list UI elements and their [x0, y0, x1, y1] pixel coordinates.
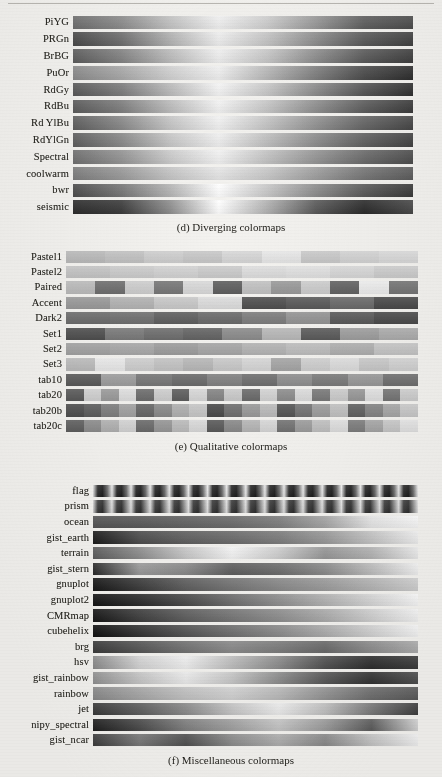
colormap-row: hsv [0, 655, 442, 671]
colormap-row: flag [0, 483, 442, 499]
colormap-name-label: CMRmap [0, 610, 93, 622]
colormap-row: Accent [0, 295, 442, 310]
colormap-name-label: Set1 [0, 328, 66, 340]
colormap-row: Rd YlBu [0, 115, 442, 132]
colormap-swatch-bar [66, 328, 418, 340]
colormap-row: PuOr [0, 64, 442, 81]
colormap-row: gnuplot [0, 577, 442, 593]
colormap-name-label: flag [0, 485, 93, 497]
colormap-row: gist_stern [0, 561, 442, 577]
colormap-row: bwr [0, 182, 442, 199]
colormap-row: brg [0, 639, 442, 655]
qualitative-rows: Pastel1Pastel2PairedAccentDark2Set1Set2S… [0, 249, 442, 434]
colormap-row: seismic [0, 199, 442, 216]
figure-diverging-colormaps: PiYGPRGnBrBGPuOrRdGyRdBuRd YlBuRdYlGnSpe… [0, 14, 442, 233]
colormap-row: gist_earth [0, 530, 442, 546]
colormap-name-label: PiYG [0, 16, 73, 28]
colormap-row: rainbow [0, 686, 442, 702]
colormap-name-label: gist_stern [0, 563, 93, 575]
figure-d-caption: (d) Diverging colormaps [0, 221, 442, 233]
colormap-row: Pastel2 [0, 264, 442, 279]
diverging-rows: PiYGPRGnBrBGPuOrRdGyRdBuRd YlBuRdYlGnSpe… [0, 14, 442, 216]
colormap-row: Set1 [0, 326, 442, 341]
colormap-row: nipy_spectral [0, 717, 442, 733]
colormap-swatch-bar [73, 150, 413, 164]
colormap-name-label: Pastel1 [0, 251, 66, 263]
colormap-swatch-bar [73, 49, 413, 63]
colormap-row: Set2 [0, 341, 442, 356]
colormap-row: gist_rainbow [0, 670, 442, 686]
colormap-row: Dark2 [0, 311, 442, 326]
colormap-name-label: Pastel2 [0, 266, 66, 278]
colormap-swatch-bar [73, 184, 413, 198]
colormap-swatch-bar [73, 167, 413, 181]
colormap-swatch-bar [93, 703, 418, 715]
colormap-row: ocean [0, 514, 442, 530]
colormap-name-label: coolwarm [0, 168, 73, 180]
colormap-swatch-bar [93, 485, 418, 497]
colormap-name-label: Set3 [0, 358, 66, 370]
colormap-swatch-bar [73, 32, 413, 46]
colormap-name-label: rainbow [0, 688, 93, 700]
colormap-name-label: ocean [0, 516, 93, 528]
colormap-name-label: brg [0, 641, 93, 653]
colormap-name-label: tab20b [0, 405, 66, 417]
colormap-swatch-bar [73, 83, 413, 97]
colormap-row: RdYlGn [0, 132, 442, 149]
colormap-swatch-bar [93, 687, 418, 699]
colormap-swatch-bar [93, 734, 418, 746]
colormap-row: Spectral [0, 148, 442, 165]
colormap-row: gnuplot2 [0, 592, 442, 608]
colormap-swatch-bar [66, 389, 418, 401]
figure-f-caption: (f) Miscellaneous colormaps [0, 754, 442, 766]
colormap-swatch-bar [93, 563, 418, 575]
colormap-name-label: tab10 [0, 374, 66, 386]
colormap-name-label: nipy_spectral [0, 719, 93, 731]
colormap-name-label: cubehelix [0, 625, 93, 637]
colormap-name-label: seismic [0, 201, 73, 213]
colormap-swatch-bar [73, 133, 413, 147]
colormap-row: Set3 [0, 357, 442, 372]
miscellaneous-rows: flagprismoceangist_earthterraingist_ster… [0, 483, 442, 748]
colormap-name-label: gnuplot [0, 578, 93, 590]
colormap-name-label: prism [0, 500, 93, 512]
figure-miscellaneous-colormaps: flagprismoceangist_earthterraingist_ster… [0, 483, 442, 766]
colormap-name-label: RdBu [0, 100, 73, 112]
colormap-swatch-bar [66, 358, 418, 370]
colormap-swatch-bar [93, 516, 418, 528]
colormap-swatch-bar [66, 297, 418, 309]
colormap-name-label: Dark2 [0, 312, 66, 324]
colormap-name-label: Rd YlBu [0, 117, 73, 129]
colormap-swatch-bar [93, 531, 418, 543]
colormap-row: terrain [0, 545, 442, 561]
colormap-swatch-bar [93, 578, 418, 590]
colormap-swatch-bar [66, 343, 418, 355]
colormap-name-label: BrBG [0, 50, 73, 62]
colormap-name-label: terrain [0, 547, 93, 559]
colormap-swatch-bar [93, 547, 418, 559]
colormap-name-label: Accent [0, 297, 66, 309]
figure-qualitative-colormaps: Pastel1Pastel2PairedAccentDark2Set1Set2S… [0, 249, 442, 452]
colormap-swatch-bar [66, 266, 418, 278]
colormap-swatch-bar [66, 281, 418, 293]
colormap-row: PRGn [0, 31, 442, 48]
colormap-name-label: gist_rainbow [0, 672, 93, 684]
colormap-swatch-bar [66, 312, 418, 324]
colormap-row: RdGy [0, 81, 442, 98]
colormap-name-label: gnuplot2 [0, 594, 93, 606]
colormap-swatch-bar [73, 16, 413, 30]
colormap-row: RdBu [0, 98, 442, 115]
colormap-swatch-bar [73, 116, 413, 130]
colormap-name-label: hsv [0, 656, 93, 668]
colormap-swatch-bar [93, 609, 418, 621]
colormap-name-label: gist_ncar [0, 734, 93, 746]
colormap-row: gist_ncar [0, 733, 442, 749]
colormap-swatch-bar [66, 374, 418, 386]
colormap-row: tab10 [0, 372, 442, 387]
colormap-swatch-bar [93, 625, 418, 637]
colormap-name-label: bwr [0, 184, 73, 196]
colormap-name-label: tab20c [0, 420, 66, 432]
figure-e-caption: (e) Qualitative colormaps [0, 440, 442, 452]
colormap-swatch-bar [66, 251, 418, 263]
colormap-row: Pastel1 [0, 249, 442, 264]
